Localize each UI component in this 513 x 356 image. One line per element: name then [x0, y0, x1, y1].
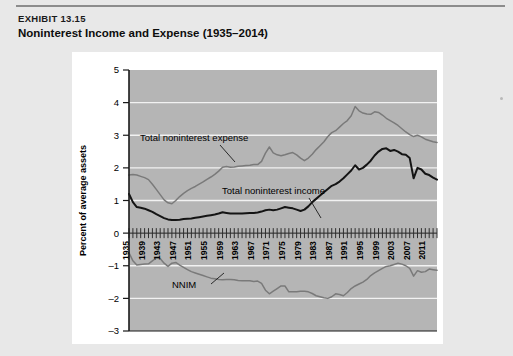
line-chart: 543210–1–2–3 193519391943194719511955195… — [72, 52, 443, 344]
x-tick-label: 1967 — [246, 241, 256, 260]
y-tick-label: 5 — [114, 64, 119, 75]
page-artifact-dot — [500, 97, 503, 100]
y-axis-ticks: 543210–1–2–3 — [108, 64, 129, 336]
y-tick-label: 3 — [114, 130, 119, 141]
chart-card: 543210–1–2–3 193519391943194719511955195… — [72, 52, 443, 344]
x-tick-label: 2011 — [417, 241, 427, 260]
x-tick-label: 2003 — [386, 241, 396, 260]
y-tick-label: –3 — [108, 325, 119, 336]
x-tick-label: 1947 — [168, 241, 178, 260]
y-tick-label: 0 — [114, 228, 119, 239]
exhibit-header: EXHIBIT 13.15 Noninterest Income and Exp… — [18, 12, 488, 41]
x-tick-label: 1939 — [137, 241, 147, 260]
x-tick-label: 1991 — [339, 241, 349, 260]
y-axis-title: Percent of average assets — [78, 145, 88, 256]
x-tick-label: 1963 — [230, 241, 240, 260]
x-tick-label: 1955 — [199, 241, 209, 260]
exhibit-figure: EXHIBIT 13.15 Noninterest Income and Exp… — [0, 0, 513, 356]
x-tick-label: 1987 — [324, 241, 334, 260]
y-tick-label: –1 — [108, 260, 119, 271]
x-tick-label: 1975 — [277, 241, 287, 260]
exhibit-number-label: EXHIBIT 13.15 — [18, 12, 488, 25]
exhibit-title: Noninterest Income and Expense (1935–201… — [18, 26, 488, 41]
y-tick-label: 1 — [114, 195, 119, 206]
y-tick-label: 2 — [114, 162, 119, 173]
x-tick-label: 1959 — [215, 241, 225, 260]
y-tick-label: –2 — [108, 293, 119, 304]
x-tick-label: 1943 — [152, 241, 162, 260]
series-annotation-label: NNIM — [172, 279, 196, 290]
x-tick-label: 1971 — [261, 241, 271, 260]
series-annotation-label: Total noninterest expense — [140, 132, 248, 143]
y-tick-label: 4 — [114, 97, 119, 108]
series-annotation-label: Total noninterest income — [222, 185, 325, 196]
x-tick-label: 1979 — [293, 241, 303, 260]
x-tick-label: 1995 — [355, 241, 365, 260]
x-tick-label: 1951 — [183, 241, 193, 260]
x-tick-label: 1983 — [308, 241, 318, 260]
x-tick-label: 1999 — [371, 241, 381, 260]
x-tick-label: 2007 — [402, 241, 412, 260]
header-divider — [16, 5, 505, 7]
y-axis-title-text: Percent of average assets — [78, 145, 88, 256]
